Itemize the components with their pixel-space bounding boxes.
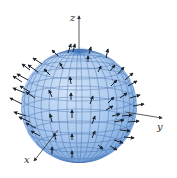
x-axis-label: x (24, 154, 30, 165)
z-axis-label: z (69, 12, 76, 23)
y-axis-label: y (156, 121, 163, 132)
sphere-vector-field-diagram: z y x (0, 0, 177, 178)
sphere (21, 47, 137, 163)
